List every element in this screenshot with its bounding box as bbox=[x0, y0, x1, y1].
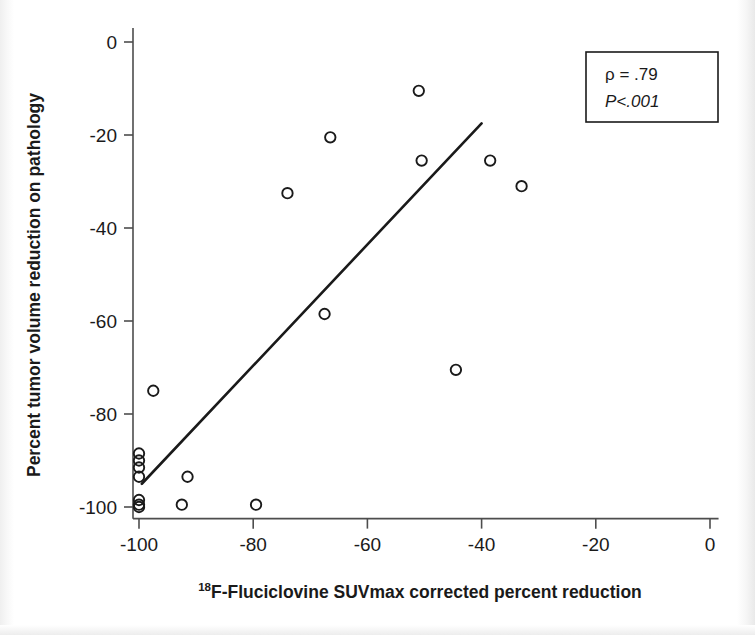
x-tick-label: -80 bbox=[239, 534, 266, 555]
x-tick-label: -40 bbox=[468, 534, 495, 555]
y-axis-title: Percent tumor volume reduction on pathol… bbox=[24, 93, 44, 477]
data-point bbox=[325, 132, 335, 142]
data-points bbox=[134, 86, 527, 513]
x-axis-title: 18F-Fluciclovine SUVmax corrected percen… bbox=[198, 581, 642, 602]
data-point bbox=[251, 499, 261, 509]
x-tick-label: -100 bbox=[120, 534, 158, 555]
x-axis-ticks: -100-80-60-40-200 bbox=[120, 519, 715, 555]
x-tick-label: -20 bbox=[582, 534, 609, 555]
x-axis-title-superscript: 18 bbox=[198, 581, 211, 593]
data-point bbox=[416, 155, 426, 165]
scatter-plot: 0-20-40-60-80-100 -100-80-60-40-200 ρ = … bbox=[0, 0, 755, 635]
data-point bbox=[451, 365, 461, 375]
data-point bbox=[177, 499, 187, 509]
data-point bbox=[148, 386, 158, 396]
y-tick-label: -80 bbox=[90, 404, 117, 425]
data-point bbox=[319, 309, 329, 319]
data-point bbox=[414, 86, 424, 96]
trendline-segment bbox=[142, 123, 482, 483]
x-tick-label: -60 bbox=[354, 534, 381, 555]
figure-panel: 0-20-40-60-80-100 -100-80-60-40-200 ρ = … bbox=[0, 0, 755, 635]
y-axis-ticks: 0-20-40-60-80-100 bbox=[79, 32, 133, 518]
p-value-label: P<.001 bbox=[605, 92, 659, 111]
data-point bbox=[282, 188, 292, 198]
y-tick-label: -40 bbox=[90, 218, 117, 239]
y-tick-label: -100 bbox=[79, 497, 117, 518]
stats-annotation-box: ρ = .79 P<.001 bbox=[586, 52, 718, 122]
data-point bbox=[516, 181, 526, 191]
y-tick-label: -60 bbox=[90, 311, 117, 332]
data-point bbox=[485, 155, 495, 165]
x-tick-label: 0 bbox=[705, 534, 716, 555]
y-tick-label: -20 bbox=[90, 125, 117, 146]
y-tick-label: 0 bbox=[106, 32, 117, 53]
regression-trendline bbox=[142, 123, 482, 483]
data-point bbox=[182, 472, 192, 482]
stats-box-border bbox=[586, 52, 718, 122]
x-axis-title-text: F-Fluciclovine SUVmax corrected percent … bbox=[211, 582, 642, 602]
rho-value-label: ρ = .79 bbox=[605, 65, 658, 84]
